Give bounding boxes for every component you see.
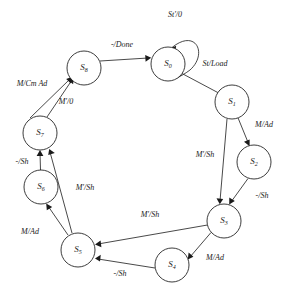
edge-label-s0-s1: St/Load (203, 59, 229, 68)
state-node-S1[interactable]: S1 (215, 85, 249, 119)
edge-label-s4-s5: -/Sh (114, 269, 127, 278)
edge-label-s0-self: St'/0 (168, 10, 182, 19)
state-node-S5[interactable]: S5 (61, 233, 95, 267)
edge-line-s0-s1 (182, 74, 222, 95)
edge-line-s1-s3 (220, 119, 227, 201)
arrowhead-s8-s0 (145, 55, 151, 62)
edge-label-s6-s7: -/Sh (16, 157, 29, 166)
state-node-S4[interactable]: S4 (155, 248, 189, 282)
edge-label-s1-s3: M'/Sh (195, 150, 215, 159)
state-node-S0[interactable]: S0 (151, 47, 185, 81)
fsm-graphic: S0 S1 S2 S3 S4 S5 (0, 0, 288, 295)
node-layer: S0 S1 S2 S3 S4 S5 (23, 47, 271, 282)
state-node-S6[interactable]: S6 (24, 170, 58, 204)
state-node-S8[interactable]: S8 (67, 51, 101, 85)
edge-line-s3-s5 (98, 225, 208, 244)
edge-s4-s5 (95, 255, 155, 268)
edge-label-s7-s8-inner: M'/0 (58, 97, 74, 106)
arrowhead-s5-s7 (48, 149, 55, 155)
edge-s1-s2 (238, 118, 250, 146)
arrowhead-s2-s3 (229, 198, 235, 205)
arrowhead-s6-s7 (37, 150, 44, 156)
edge-s1-s3 (217, 119, 228, 204)
edge-line-s1-s2 (238, 118, 249, 144)
state-node-S2[interactable]: S2 (237, 145, 271, 179)
edge-s8-s0 (100, 55, 151, 62)
edge-line-s2-s3 (231, 179, 248, 203)
state-diagram-canvas: S0 S1 S2 S3 S4 S5 (0, 0, 288, 295)
state-node-S7[interactable]: S7 (23, 116, 57, 150)
edge-line-s5-s6 (48, 206, 68, 235)
edge-label-layer: St'/0 St/Load M/Ad M'/Sh -/Sh M/Ad M'/Sh… (16, 10, 274, 278)
arrowhead-s3-s5 (95, 241, 101, 248)
edge-label-s1-s2: M/Ad (254, 120, 274, 129)
edge-line-s4-s5 (98, 259, 155, 268)
edge-s2-s3 (229, 179, 248, 205)
arrowhead-s5-s6 (46, 203, 52, 210)
arrowhead-s1-s3 (217, 198, 224, 204)
edge-s5-s6 (46, 203, 68, 235)
edge-label-s3-s5: M'/Sh (140, 210, 160, 219)
edge-label-s8-s0: -/Done (111, 40, 134, 49)
edge-label-s3-s4: M/Ad (205, 253, 225, 262)
edge-label-s7-s8-outer: M/Cm Ad (16, 79, 49, 88)
arrowhead-s1-s2 (244, 140, 250, 147)
edge-s6-s7 (37, 150, 44, 170)
edge-label-s5-s6: M/Ad (20, 227, 40, 236)
edge-s3-s5 (95, 225, 208, 247)
arrowhead-s4-s5 (95, 255, 101, 262)
state-node-S3[interactable]: S3 (207, 204, 241, 238)
edge-label-s5-s7: M'/Sh (75, 183, 95, 192)
edge-line-s8-s0 (100, 58, 148, 61)
edge-label-s2-s3: -/Sh (256, 191, 269, 200)
